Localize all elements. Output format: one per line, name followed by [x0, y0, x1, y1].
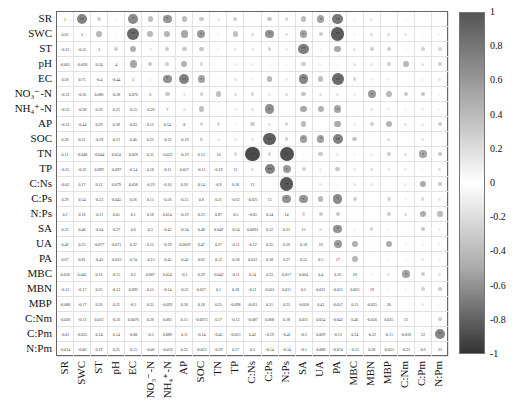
correlation-circle [438, 138, 441, 141]
matrix-cell: 0.18 [193, 297, 210, 312]
matrix-cell [279, 132, 296, 147]
matrix-cell: * [159, 72, 176, 87]
matrix-cell: -0.28 [227, 252, 244, 267]
matrix-cell: -0.23 [398, 342, 415, 357]
matrix-cell: -0.08 [125, 327, 142, 342]
matrix-cell [91, 12, 108, 27]
correlation-circle: ** [263, 133, 276, 146]
column-label: MBC [347, 361, 359, 385]
matrix-cell: -0.5 [227, 207, 244, 222]
colorbar [459, 12, 485, 354]
correlation-circle [301, 92, 306, 97]
matrix-cell: 18 [347, 267, 364, 282]
correlation-circle [370, 213, 373, 216]
matrix-cell: 2 [74, 27, 91, 42]
matrix-cell: 0.1 [210, 282, 227, 297]
matrix-cell [415, 12, 432, 27]
matrix-cell: -0.17 [74, 297, 91, 312]
matrix-cell: 0.12 [210, 252, 227, 267]
matrix-cell: 0.25 [210, 297, 227, 312]
correlation-circle [181, 61, 187, 67]
correlation-circle [353, 168, 356, 171]
correlation-circle [148, 16, 153, 21]
matrix-cell: -0.074 [330, 342, 347, 357]
correlation-circle [302, 212, 305, 215]
row-label: SOC [31, 132, 52, 144]
column-label: MBN [364, 361, 376, 386]
row-label: TN [37, 147, 52, 159]
matrix-cell [398, 237, 415, 252]
matrix-cell: 11 [227, 162, 244, 177]
correlation-circle [217, 48, 220, 51]
matrix-cell: -0.032 [159, 147, 176, 162]
matrix-cell: 0.011 [279, 282, 296, 297]
matrix-cell [398, 282, 415, 297]
matrix-cell [415, 87, 432, 102]
matrix-cell: ** [244, 147, 261, 162]
correlation-circle [386, 121, 392, 127]
matrix-cell: 0.089 [159, 327, 176, 342]
correlation-circle: ** [280, 177, 293, 190]
matrix-cell [210, 42, 227, 57]
matrix-cell [398, 57, 415, 72]
correlation-circle [115, 33, 118, 36]
matrix-cell [364, 207, 381, 222]
correlation-circle [285, 17, 288, 20]
correlation-circle: * [402, 270, 409, 277]
correlation-circle: * [300, 135, 308, 143]
row-label: EC [38, 72, 52, 84]
matrix-cell [347, 117, 364, 132]
correlation-circle [199, 106, 204, 111]
colorbar-tick: -1 [490, 348, 498, 359]
matrix-cell [381, 237, 398, 252]
correlation-circle [404, 168, 407, 171]
column-label: C:Ns [245, 361, 257, 384]
matrix-cell: 0.031 [296, 312, 313, 327]
correlation-circle [421, 18, 424, 21]
correlation-circle [234, 48, 237, 51]
correlation-circle [438, 18, 441, 21]
matrix-cell [432, 42, 449, 57]
matrix-cell [193, 102, 210, 117]
correlation-circle [387, 212, 391, 216]
row-label: C:Ns [29, 177, 52, 189]
row-label: pH [39, 57, 52, 69]
matrix-cell: 0.27 [279, 252, 296, 267]
matrix-cell: -0.059 [159, 342, 176, 357]
matrix-cell: 0.32 [125, 237, 142, 252]
matrix-cell [398, 72, 415, 87]
correlation-circle [370, 183, 373, 186]
column-label: UA [313, 361, 325, 377]
correlation-circle [370, 198, 373, 201]
matrix-cell: -0.36 [74, 87, 91, 102]
matrix-cell [432, 147, 449, 162]
matrix-cell: -0.35 [74, 42, 91, 57]
correlation-circle [421, 318, 424, 321]
matrix-cell: -0.83 [244, 207, 261, 222]
matrix-cell: -0.1 [125, 297, 142, 312]
correlation-circle [438, 228, 441, 231]
matrix-cell: -0.33 [57, 87, 74, 102]
matrix-cell: 4 [108, 57, 125, 72]
matrix-cell: 0.26 [91, 297, 108, 312]
column-label: TN [211, 361, 223, 376]
matrix-cell: -0.02 [57, 177, 74, 192]
correlation-circle [233, 17, 237, 21]
matrix-cell [91, 27, 108, 42]
matrix-cell: -0.11 [381, 327, 398, 342]
matrix-cell: 0.29 [193, 267, 210, 282]
matrix-cell [398, 12, 415, 27]
matrix-cell [364, 222, 381, 237]
matrix-cell: -0.42 [176, 252, 193, 267]
matrix-cell: 0.21 [262, 297, 279, 312]
matrix-cell: -0.32 [74, 162, 91, 177]
matrix-cell [398, 222, 415, 237]
correlation-circle [336, 93, 339, 96]
correlation-circle [319, 183, 322, 186]
correlation-circle [181, 30, 188, 37]
matrix-cell [227, 72, 244, 87]
matrix-cell [398, 132, 415, 147]
matrix-cell [347, 177, 364, 192]
correlation-circle [370, 33, 373, 36]
correlation-circle: ** [435, 329, 445, 339]
